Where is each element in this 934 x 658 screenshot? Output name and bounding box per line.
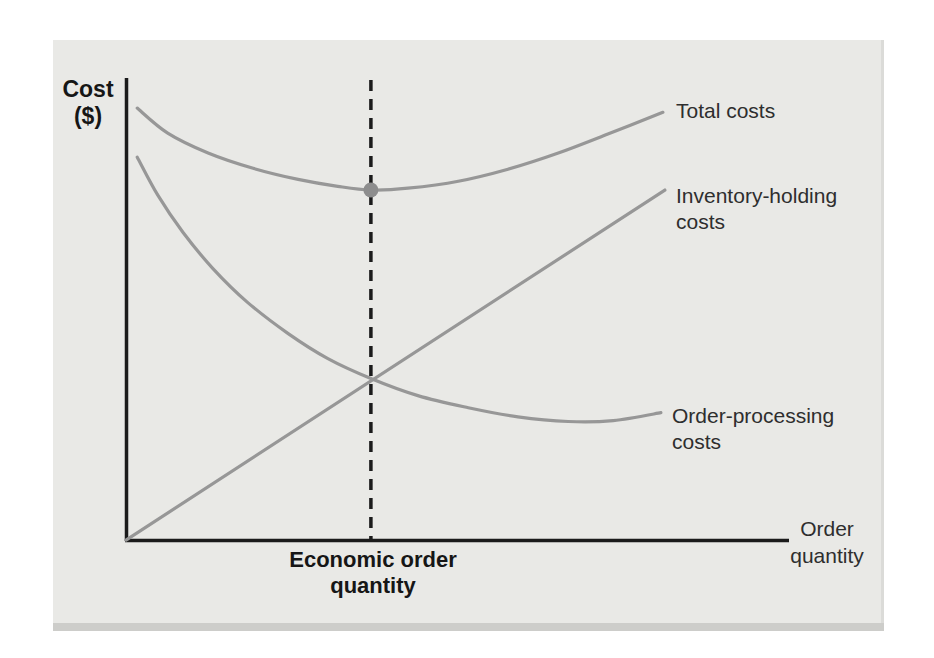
total-costs-label: Total costs bbox=[676, 98, 775, 124]
page: Cost ($) Total costs Inventory-holding c… bbox=[0, 0, 934, 658]
x-axis-label: Order quantity bbox=[770, 515, 884, 569]
order-processing-costs-curve bbox=[137, 157, 661, 422]
order-processing-costs-label: Order-processing costs bbox=[672, 403, 834, 455]
inventory-holding-costs-curve bbox=[126, 190, 665, 540]
total-costs-curve bbox=[137, 108, 663, 190]
economic-order-quantity-label: Economic order quantity bbox=[272, 547, 474, 599]
inventory-holding-costs-label: Inventory-holding costs bbox=[676, 183, 837, 235]
optimum-point-dot bbox=[363, 183, 378, 198]
y-axis-label: Cost ($) bbox=[56, 76, 120, 130]
